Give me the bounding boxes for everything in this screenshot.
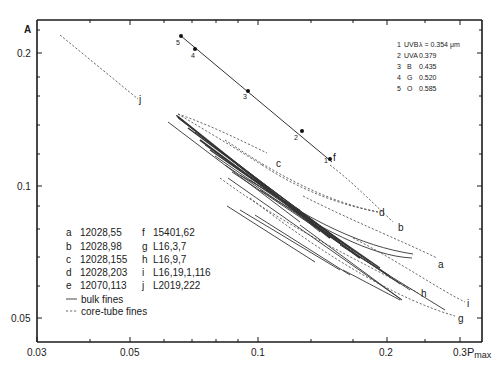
point-2 (300, 129, 304, 133)
legend-bulk-fines: bulk fines (81, 294, 123, 305)
point-1 (328, 157, 332, 161)
point-label-5: 5 (176, 39, 180, 46)
x-tick-0.05: 0.05 (120, 347, 140, 358)
bulk-fines-bundle (168, 115, 445, 310)
legend-name-a: 12028,55 (80, 227, 122, 238)
wl-n-2: 2 (397, 52, 401, 59)
x-tick-0.3: 0.3 (453, 347, 467, 358)
y-tick-0.1: 0.1 (17, 181, 31, 192)
core-tube-curves: c d b a h i g (178, 114, 469, 324)
curve-label-d: d (379, 207, 385, 218)
y-axis-label: A (24, 24, 31, 35)
wl-lambda-5: 0.585 (419, 85, 437, 92)
wl-band-2: UVA (404, 52, 418, 59)
chart: 0.03 0.05 0.1 0.2 0.3 Pmax 0.2 0.1 0.05 … (0, 0, 504, 369)
wl-band-5: O (407, 85, 413, 92)
legend-name-i: L16,19,1,116 (153, 267, 211, 278)
y-tick-0.2: 0.2 (17, 48, 31, 59)
wl-n-3: 3 (397, 63, 401, 70)
sample-legend: a 12028,55 b 12028,98 c 12028,155 d 1202… (66, 227, 211, 317)
wl-n-1: 1 (397, 41, 401, 48)
legend-key-a: a (66, 227, 72, 238)
point-label-2: 2 (294, 134, 298, 141)
curve-label-a: a (438, 259, 444, 270)
legend-name-j: L2019,222 (153, 280, 201, 291)
x-tick-0.03: 0.03 (27, 347, 47, 358)
legend-key-b: b (66, 241, 72, 252)
wl-lambda-1: λ = 0.354 μm (419, 41, 460, 49)
legend-name-c: 12028,155 (80, 254, 128, 265)
legend-key-d: d (66, 267, 72, 278)
point-label-3: 3 (243, 93, 247, 100)
wl-lambda-2: 0.379 (419, 52, 437, 59)
wl-band-3: B (407, 63, 412, 70)
curve-label-j: j (138, 94, 141, 105)
legend-name-b: 12028,98 (80, 241, 122, 252)
wl-n-4: 4 (397, 74, 401, 81)
wl-lambda-3: 0.435 (419, 63, 437, 70)
legend-key-c: c (66, 254, 71, 265)
wl-band-1: UVB (404, 41, 419, 48)
legend-core-tube-fines: core-tube fines (81, 306, 147, 317)
y-tick-labels: 0.2 0.1 0.05 A (11, 24, 31, 324)
legend-key-g: g (142, 241, 148, 252)
legend-name-e: 12070,113 (80, 280, 127, 291)
legend-name-h: L16,9,7 (153, 254, 187, 265)
legend-key-i: i (142, 267, 144, 278)
curve-label-c: c (276, 158, 281, 169)
legend-name-d: 12028,203 (80, 267, 128, 278)
legend-key-e: e (66, 280, 72, 291)
curve-label-b: b (398, 222, 404, 233)
wavelength-legend: 1 UVB λ = 0.354 μm 2 UVA 0.379 3 B 0.435… (397, 41, 460, 92)
x-tick-labels: 0.03 0.05 0.1 0.2 0.3 Pmax (27, 346, 492, 360)
point-label-4: 4 (191, 52, 195, 59)
curve-label-f: f (333, 152, 336, 163)
x-tick-0.2: 0.2 (379, 347, 393, 358)
legend-key-h: h (142, 254, 148, 265)
curve-label-g: g (458, 313, 464, 324)
point-5 (179, 34, 183, 38)
curve-label-i: i (467, 298, 469, 309)
legend-key-j: j (141, 280, 144, 291)
y-tick-0.05: 0.05 (11, 313, 31, 324)
legend-name-f: 15401,62 (153, 227, 195, 238)
legend-name-g: L16,3,7 (153, 241, 187, 252)
x-axis-label: Pmax (467, 346, 492, 360)
series-j: j (60, 35, 141, 105)
wl-n-5: 5 (397, 85, 401, 92)
point-4 (193, 47, 197, 51)
x-tick-0.1: 0.1 (251, 347, 265, 358)
point-label-1: 1 (324, 157, 328, 164)
wl-band-4: G (407, 74, 412, 81)
legend-key-f: f (142, 227, 145, 238)
wl-lambda-4: 0.520 (419, 74, 437, 81)
series-f: 5 4 3 2 1 f (176, 34, 336, 164)
